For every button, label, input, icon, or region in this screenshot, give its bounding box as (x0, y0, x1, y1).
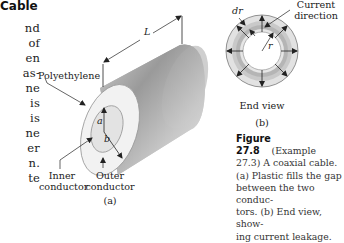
label-inner-radius: a (97, 115, 103, 126)
label-outer-conductor: Outer conductor (84, 170, 136, 192)
label-inner-conductor: Inner conductor (39, 170, 85, 192)
figure-number: Figure 27.8 (236, 133, 271, 156)
label-polyethylene: Polyethylene (38, 70, 100, 81)
label-outer-radius: b (104, 133, 110, 144)
label-current-direction: Current direction (288, 0, 344, 21)
panel-label-b: (b) (252, 117, 272, 128)
label-r: r (268, 40, 273, 51)
panel-label-a: (a) (100, 195, 120, 206)
label-dr: dr (232, 5, 243, 16)
figure-caption: Figure 27.8 (Example 27.3) A coaxial cab… (236, 133, 344, 243)
coaxial-cable-cylinder (70, 40, 218, 183)
end-view-diagram (226, 10, 298, 87)
label-length: L (144, 26, 150, 37)
label-end-view: End view (236, 100, 288, 111)
